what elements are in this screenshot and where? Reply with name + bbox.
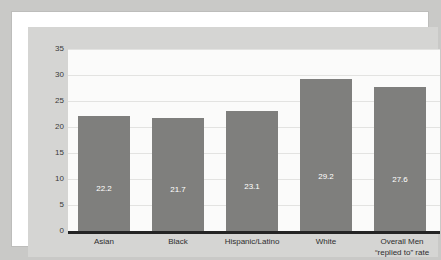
y-tick-label: 25 <box>42 97 64 105</box>
y-tick-label: 15 <box>42 149 64 157</box>
category-label: Overall Men “replied to” rate <box>364 236 440 258</box>
bar-slot: 22.2 <box>78 49 130 231</box>
bar-value-label: 27.6 <box>374 175 426 184</box>
chart-panel: 35 30 25 20 15 10 5 0 <box>28 27 438 257</box>
y-tick-label: 35 <box>42 45 64 53</box>
x-axis-categories: Asian Black Hispanic/Latino White Overal… <box>68 236 440 260</box>
category-label-line: Black <box>142 236 214 247</box>
category-label: Black <box>142 236 214 247</box>
bar[interactable] <box>374 87 426 231</box>
bars-layer: 22.2 21.7 23.1 29.2 27.6 <box>68 49 440 231</box>
category-label: Asian <box>68 236 140 247</box>
category-label-line: Hispanic/Latino <box>216 236 288 247</box>
y-tick-label: 30 <box>42 71 64 79</box>
bar[interactable] <box>300 79 352 231</box>
category-label-line: White <box>290 236 362 247</box>
y-tick-label: 0 <box>42 227 64 235</box>
bar-slot: 27.6 <box>374 49 426 231</box>
bar-slot: 23.1 <box>226 49 278 231</box>
category-label: White <box>290 236 362 247</box>
y-tick-label: 5 <box>42 201 64 209</box>
bar[interactable] <box>152 118 204 231</box>
bar-value-label: 22.2 <box>78 184 130 193</box>
bar-slot: 21.7 <box>152 49 204 231</box>
category-label: Hispanic/Latino <box>216 236 288 247</box>
category-label-line: Asian <box>68 236 140 247</box>
category-label-line: Overall Men <box>364 236 440 247</box>
bar-value-label: 21.7 <box>152 185 204 194</box>
y-tick-label: 20 <box>42 123 64 131</box>
figure-frame: 35 30 25 20 15 10 5 0 <box>11 11 429 247</box>
x-axis-line <box>68 231 440 234</box>
bar-value-label: 29.2 <box>300 172 352 181</box>
bar[interactable] <box>226 111 278 231</box>
y-axis-ticks: 35 30 25 20 15 10 5 0 <box>38 49 64 231</box>
bar-slot: 29.2 <box>300 49 352 231</box>
bar[interactable] <box>78 116 130 231</box>
category-label-line: “replied to” rate <box>364 247 440 258</box>
y-tick-label: 10 <box>42 175 64 183</box>
bar-value-label: 23.1 <box>226 182 278 191</box>
bar-chart-figure: 35 30 25 20 15 10 5 0 <box>0 0 441 260</box>
